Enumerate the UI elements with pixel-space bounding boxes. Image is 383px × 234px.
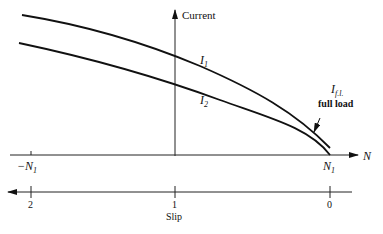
curve-i1-label: I1 [199,53,208,69]
n1-label: N1 [322,159,335,175]
full-load-pointer [314,118,320,132]
slip-tick-2-label: 2 [28,199,33,210]
slip-tick-0-label: 0 [327,199,332,210]
current-axis-label: Current [182,9,216,21]
full-load-symbol: If.l. [330,82,343,98]
current-slip-diagram: Current I1 I2 If.l. full load N −N1 N1 2… [0,0,383,234]
slip-axis-label: Slip [166,211,182,222]
full-load-label: full load [318,98,354,109]
minus-n1-label: −N1 [17,159,37,175]
curve-i1 [22,15,330,148]
slip-tick-1-label: 1 [172,199,177,210]
speed-axis-label: N [362,149,372,163]
